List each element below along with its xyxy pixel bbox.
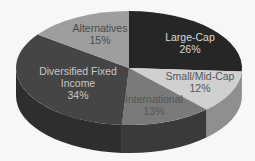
pie-chart: Large-Cap26%Small/Mid-Cap12%Internationa… xyxy=(0,0,255,161)
